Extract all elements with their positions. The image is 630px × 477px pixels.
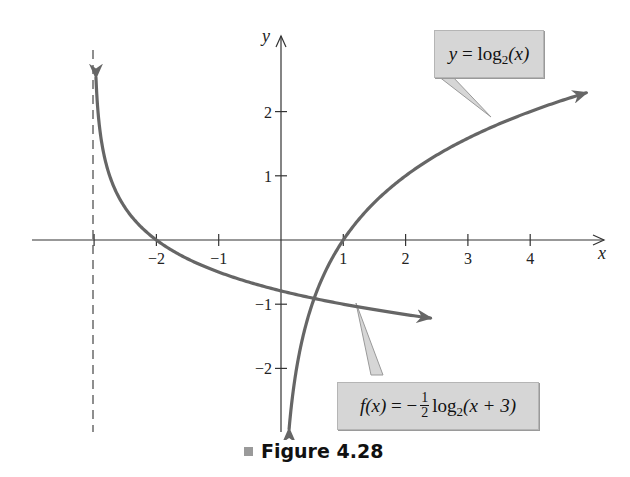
callout-f-log: log xyxy=(432,395,456,417)
callout-f-base: 2 xyxy=(457,404,464,420)
x-tick-label: −1 xyxy=(210,250,227,267)
x-tick-label: 3 xyxy=(464,250,472,267)
curve-log2 xyxy=(289,93,586,429)
y-axis-label: y xyxy=(260,26,270,46)
callout-log2-arg: (x) xyxy=(508,43,529,65)
callout-f-label: f(x) = − 1 2 log 2 (x + 3) xyxy=(337,382,539,430)
figure-caption: Figure 4.28 xyxy=(244,440,383,462)
callout-log2-label: y = log 2 (x) xyxy=(434,30,544,78)
fraction-one-half: 1 2 xyxy=(420,391,429,420)
callout-f-arg: (x + 3) xyxy=(463,395,516,417)
y-tick-label: 1 xyxy=(264,168,272,185)
callout-f-eq: = − xyxy=(386,395,417,417)
y-tick-label: −1 xyxy=(255,296,272,313)
caption-text: Figure 4.28 xyxy=(261,440,383,462)
callout-log2-base: 2 xyxy=(502,52,509,68)
callout-f-pointer xyxy=(356,303,383,375)
x-tick-label: 4 xyxy=(526,250,534,267)
caption-bullet-icon xyxy=(244,447,253,456)
callout-log2-eq: = log xyxy=(457,43,502,65)
y-tick-label: 2 xyxy=(264,104,272,121)
x-axis-label: x xyxy=(597,243,606,263)
callout-log2-lhs: y xyxy=(449,43,457,65)
x-tick-label: −2 xyxy=(148,250,165,267)
y-tick-label: −2 xyxy=(255,360,272,377)
callout-log2-pointer xyxy=(438,76,491,117)
fraction-numerator: 1 xyxy=(420,391,429,406)
callout-f-lhs: f(x) xyxy=(360,395,386,417)
fraction-denominator: 2 xyxy=(421,406,428,420)
x-tick-label: 2 xyxy=(402,250,410,267)
x-tick-label: 1 xyxy=(339,250,347,267)
